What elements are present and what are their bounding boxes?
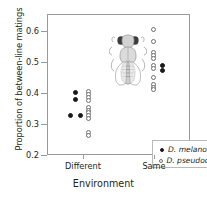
y-tick-mark — [41, 155, 47, 156]
legend-item-melanogaster: D. melanogaster — [157, 144, 207, 155]
y-tick-label: 0.4 — [26, 88, 39, 98]
y-tick-label: 0.6 — [26, 26, 39, 36]
x-axis-label: Environment — [0, 178, 207, 189]
plot-area: D. melanogaster D. pseudoobscura — [47, 14, 190, 155]
fly-illustration-icon — [109, 31, 147, 87]
legend-label-pseudoobscura: D. pseudoobscura — [166, 156, 207, 165]
y-tick-label: 0.3 — [26, 119, 39, 129]
x-tick-mark — [83, 155, 84, 159]
legend-label-melanogaster: D. melanogaster — [168, 145, 207, 154]
data-point-pseudoobscura — [151, 39, 156, 44]
scatter-plot-figure: Proportion of between-line matings 0.20.… — [0, 0, 207, 209]
data-point-pseudoobscura — [151, 66, 156, 71]
data-point-pseudoobscura — [86, 116, 91, 121]
data-point-pseudoobscura — [151, 56, 156, 61]
y-tick-label: 0.2 — [26, 150, 39, 160]
legend-marker-filled-circle-icon — [157, 148, 166, 152]
y-axis-label: Proportion of between-line matings — [14, 0, 24, 159]
data-point-pseudoobscura — [151, 87, 156, 92]
data-point-pseudoobscura — [86, 98, 91, 103]
data-point-melanogaster — [160, 68, 165, 73]
x-tick-mark — [154, 155, 155, 159]
data-point-pseudoobscura — [151, 75, 156, 80]
data-point-pseudoobscura — [151, 27, 156, 32]
data-point-melanogaster — [73, 90, 78, 95]
data-point-melanogaster — [78, 113, 83, 118]
x-tick-label-different: Different — [65, 161, 101, 171]
x-tick-label-same: Same — [142, 161, 165, 171]
data-point-melanogaster — [68, 113, 73, 118]
y-tick-label: 0.5 — [26, 57, 39, 67]
data-point-melanogaster — [73, 97, 78, 102]
data-point-pseudoobscura — [86, 133, 91, 138]
